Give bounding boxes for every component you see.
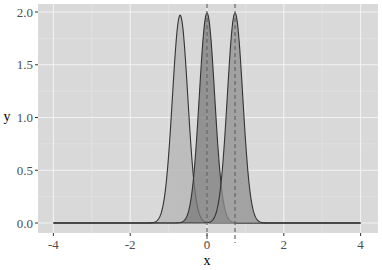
- y-tick-label: 1.5: [17, 57, 33, 72]
- x-tick-label: -4: [48, 237, 59, 252]
- x-tick-label: -2: [125, 237, 136, 252]
- x-axis-title: x: [204, 253, 211, 268]
- y-tick-label: 1.0: [17, 110, 33, 125]
- y-tick-label: 0.5: [17, 163, 33, 178]
- x-tick-label: 4: [357, 237, 364, 252]
- y-tick-label: 2.0: [17, 5, 33, 20]
- y-tick-label: 0.0: [17, 216, 33, 231]
- x-tick-label: 2: [281, 237, 288, 252]
- density-chart: -4-2024 0.00.51.01.52.0 x y: [0, 0, 382, 270]
- x-tick-label: 0: [204, 237, 211, 252]
- y-axis: 0.00.51.01.52.0: [17, 5, 38, 231]
- y-axis-title: y: [4, 109, 11, 124]
- x-axis: -4-2024: [48, 233, 364, 252]
